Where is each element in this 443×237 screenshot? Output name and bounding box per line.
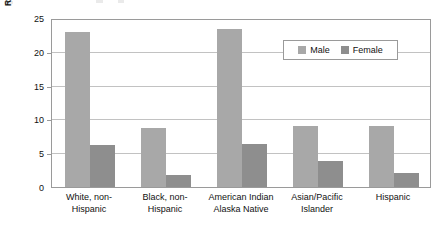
bar-female <box>318 161 343 187</box>
legend-item-female: Female <box>341 46 383 55</box>
y-axis-title-text: Rate per 100,000 population <box>3 0 13 6</box>
x-axis-label-line: Islander <box>272 204 362 216</box>
bar-chart: Rate per 100,000 population 0510152025 M… <box>0 0 443 237</box>
y-tick-label: 0 <box>14 184 44 193</box>
bar-male <box>217 29 242 187</box>
bar-female <box>242 144 267 187</box>
male-swatch-icon <box>298 46 306 54</box>
legend-item-male: Male <box>298 46 330 55</box>
x-axis-label-line: White, non- <box>66 192 112 202</box>
x-axis-label-line: Black, non- <box>142 192 187 202</box>
legend-label-female: Female <box>353 46 383 55</box>
x-axis-label-line: American Indian <box>208 192 273 202</box>
y-tick-label: 20 <box>14 49 44 58</box>
bar-female <box>90 145 115 187</box>
y-tick-label: 10 <box>14 116 44 125</box>
female-swatch-icon <box>341 46 349 54</box>
legend: Male Female <box>283 40 398 60</box>
x-axis-label-line: Asian/Pacific <box>291 192 343 202</box>
y-tick-label: 25 <box>14 15 44 24</box>
legend-label-male: Male <box>310 46 330 55</box>
bar-female <box>394 173 419 187</box>
y-axis-title: Rate per 100,000 population <box>1 0 15 26</box>
bar-female <box>166 175 191 187</box>
bar-male <box>65 32 90 187</box>
scan-artifact <box>118 0 124 3</box>
y-tick-label: 5 <box>14 150 44 159</box>
scan-artifact <box>96 0 103 3</box>
y-tick-label: 15 <box>14 83 44 92</box>
x-axis-label: Hispanic <box>348 192 438 204</box>
bar-male <box>369 126 394 187</box>
bar-male <box>141 128 166 187</box>
bar-male <box>293 126 318 187</box>
x-axis-label-line: Hispanic <box>376 192 411 202</box>
